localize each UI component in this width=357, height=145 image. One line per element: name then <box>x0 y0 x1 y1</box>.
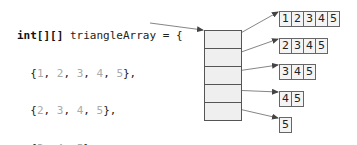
outer-array-cell <box>205 85 241 103</box>
array-element: 5 <box>328 12 339 26</box>
outer-array-cell <box>205 103 241 120</box>
row-array-0: 1 2 3 4 5 <box>279 11 340 27</box>
outer-array <box>204 30 242 121</box>
array-element: 3 <box>280 65 292 79</box>
array-element: 4 <box>280 92 292 106</box>
row-array-3: 4 5 <box>279 91 304 107</box>
array-element: 2 <box>280 39 292 53</box>
outer-array-cell <box>205 49 241 67</box>
array-element: 4 <box>292 65 304 79</box>
outer-array-cell <box>205 31 241 49</box>
array-element: 5 <box>292 92 303 106</box>
array-element: 3 <box>292 39 304 53</box>
array-element: 3 <box>304 12 316 26</box>
array-element: 4 <box>316 12 328 26</box>
array-element: 5 <box>280 118 291 132</box>
row-array-1: 2 3 4 5 <box>279 38 328 54</box>
array-element: 1 <box>280 12 292 26</box>
array-element: 5 <box>316 39 327 53</box>
row-array-4: 5 <box>279 117 292 133</box>
reference-arrow <box>150 23 203 30</box>
array-element: 5 <box>304 65 315 79</box>
outer-array-cell <box>205 67 241 85</box>
array-element: 4 <box>304 39 316 53</box>
array-element: 2 <box>292 12 304 26</box>
row-array-2: 3 4 5 <box>279 64 316 80</box>
